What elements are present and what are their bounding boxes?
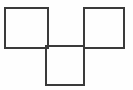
figure-container: Three squares arrangement Line drawing o… (0, 0, 133, 90)
three-squares-diagram (0, 0, 133, 90)
